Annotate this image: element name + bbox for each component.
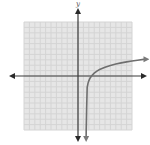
y-axis-down-arrow-icon: [75, 136, 81, 142]
x-axis-left-arrow-icon: [9, 73, 15, 79]
y-axis-up-arrow-icon: [75, 8, 81, 14]
curve-down-arrow-icon: [83, 136, 89, 142]
x-axis-right-arrow-icon: [141, 73, 147, 79]
log-function-graph: y: [0, 0, 149, 145]
curve-right-arrow-icon: [144, 56, 150, 62]
y-axis-label: y: [75, 0, 81, 8]
